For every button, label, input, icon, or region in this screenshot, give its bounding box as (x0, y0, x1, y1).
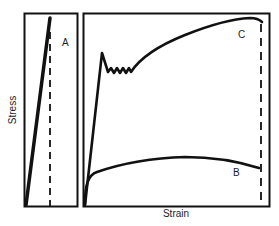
panel-bc-frame (84, 14, 270, 207)
curve-label-a: A (62, 37, 69, 48)
curve-label-c: C (238, 29, 245, 40)
curve-label-b: B (233, 167, 240, 178)
stress-strain-diagram: A C B Stress Strain (0, 0, 279, 226)
x-axis-label: Strain (163, 208, 189, 219)
panel-a-frame (25, 14, 78, 207)
y-axis-label: Stress (7, 96, 18, 124)
curve-a (26, 18, 50, 205)
curve-b (85, 157, 259, 204)
